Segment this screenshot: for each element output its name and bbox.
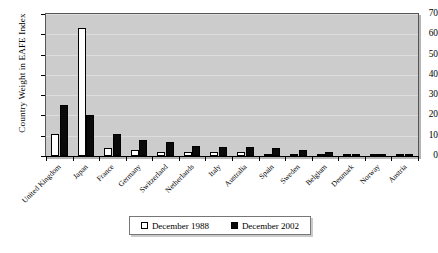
x-tick-label: Austria — [387, 163, 408, 184]
y-tick-mark — [41, 55, 45, 56]
x-tick-label: Australia — [224, 163, 249, 188]
bar — [272, 148, 280, 156]
x-tick-mark — [179, 157, 180, 161]
y-tick-mark — [41, 14, 45, 15]
x-tick-mark — [46, 157, 47, 161]
bar-group — [126, 14, 153, 156]
bar-groups — [46, 14, 418, 156]
x-tick-mark — [365, 157, 366, 161]
x-tick-label: Japan — [72, 163, 90, 181]
bar-group — [338, 14, 365, 156]
bar-group — [179, 14, 206, 156]
x-tick-label: Italy — [207, 163, 223, 179]
bar-group — [391, 14, 418, 156]
bar — [139, 140, 147, 156]
x-tick-mark — [338, 157, 339, 161]
x-tick-label: Sweden — [279, 163, 302, 186]
x-tick-mark — [391, 157, 392, 161]
bar — [104, 148, 112, 156]
x-tick-mark — [152, 157, 153, 161]
legend-entry: December 1988 — [141, 221, 209, 231]
x-tick-mark — [126, 157, 127, 161]
x-tick-mark — [232, 157, 233, 161]
bar-group — [46, 14, 73, 156]
bar-group — [73, 14, 100, 156]
x-tick-label: Belgium — [305, 163, 329, 187]
bar-group — [232, 14, 259, 156]
bar — [192, 146, 200, 156]
legend-swatch-white — [141, 222, 148, 229]
bar — [113, 134, 121, 156]
legend: December 1988December 2002 — [129, 216, 311, 235]
x-tick-mark — [73, 157, 74, 161]
x-tick-mark — [418, 157, 419, 161]
y-tick-mark — [41, 136, 45, 137]
bar — [86, 115, 94, 156]
bar-group — [99, 14, 126, 156]
x-tick-mark — [205, 157, 206, 161]
bar-chart: Country Weight in EAFE Index 01020304050… — [0, 0, 438, 253]
bar-group — [365, 14, 392, 156]
bar-group — [152, 14, 179, 156]
x-tick-label: France — [96, 163, 116, 183]
y-tick-mark — [41, 75, 45, 76]
bar — [166, 142, 174, 156]
x-tick-label: United Kingdom — [21, 163, 63, 205]
bar-group — [259, 14, 286, 156]
bar-group — [205, 14, 232, 156]
bar-group — [312, 14, 339, 156]
y-axis-title: Country Weight in EAFE Index — [17, 0, 27, 153]
bar — [246, 147, 254, 156]
y-tick-mark — [41, 115, 45, 116]
bar — [78, 28, 86, 156]
bar — [60, 105, 68, 156]
bar — [219, 147, 227, 156]
x-tick-mark — [99, 157, 100, 161]
bar — [51, 134, 59, 156]
legend-entry: December 2002 — [231, 221, 299, 231]
bar-group — [285, 14, 312, 156]
legend-label: December 2002 — [242, 221, 299, 231]
x-tick-label: Spain — [258, 163, 276, 181]
y-tick-mark — [41, 34, 45, 35]
x-tick-label: Norway — [359, 163, 382, 186]
y-tick-mark — [41, 95, 45, 96]
x-tick-mark — [285, 157, 286, 161]
legend-swatch-black — [231, 222, 238, 229]
x-tick-label: Denmark — [330, 163, 356, 189]
legend-label: December 1988 — [152, 221, 209, 231]
x-tick-mark — [312, 157, 313, 161]
x-tick-mark — [259, 157, 260, 161]
